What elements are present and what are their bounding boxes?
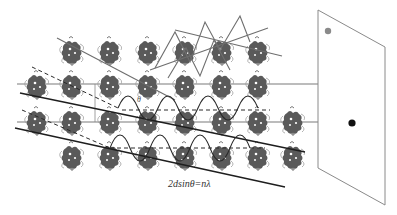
protein-molecule-icon <box>173 107 197 137</box>
protein-molecule-icon <box>210 71 234 101</box>
protein-molecule-icon <box>210 142 234 172</box>
angle-theta-label: θ <box>137 95 141 104</box>
protein-lattice <box>25 37 305 172</box>
protein-molecule-icon <box>60 107 84 137</box>
detector-screen <box>318 10 385 205</box>
protein-molecule-icon <box>25 71 49 101</box>
protein-molecule-icon <box>60 71 84 101</box>
protein-molecule-icon <box>281 142 305 172</box>
protein-molecule-icon <box>246 71 270 101</box>
protein-molecule-icon <box>60 142 84 172</box>
protein-molecule-icon <box>246 107 270 137</box>
diffraction-spot-strong <box>348 119 355 126</box>
bragg-law-formula: 2dsinθ=nλ <box>168 178 211 189</box>
protein-molecule-icon <box>98 142 122 172</box>
protein-molecule-icon <box>281 107 305 137</box>
protein-molecule-icon <box>136 37 160 67</box>
incident-rays <box>15 93 305 187</box>
protein-molecule-icon <box>210 107 234 137</box>
protein-molecule-icon <box>173 71 197 101</box>
protein-molecule-icon <box>136 142 160 172</box>
protein-molecule-icon <box>98 71 122 101</box>
diffraction-spot-weak <box>325 28 331 34</box>
